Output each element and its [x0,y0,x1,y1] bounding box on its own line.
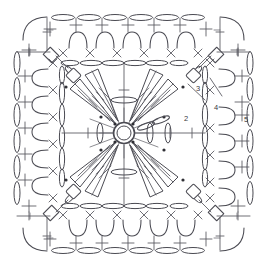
x-mark-group-bottom [59,211,202,219]
outer-right-chain-column [206,44,253,212]
row-label-2: 2 [184,114,188,123]
row-number-labels: 2 3 4 5 [184,84,248,124]
round3-chain-bar-left [59,66,64,187]
x-mark-group-top [59,49,202,57]
row-label-5: 5 [244,115,248,124]
corner-blocks [17,18,250,250]
chain-arch-group-top [69,32,195,48]
row-label-3: 3 [196,84,200,93]
crochet-chart-canvas: 2 3 4 5 [0,0,267,270]
round3-chain-bar-top [61,60,188,65]
crochet-pattern-diagram: 2 3 4 5 [0,0,267,270]
single-crochet-plus-group-right [231,44,249,212]
x-mark-group-left [49,59,57,202]
magic-ring-center [114,123,135,144]
row-label-4: 4 [214,103,218,112]
outer-left-chain-column [14,44,57,212]
chain-arch-group-bottom [69,220,195,236]
round3-chain-bar-right [202,66,207,187]
chain-oval-group-right [247,52,253,205]
outer-top-chain-row [23,15,244,58]
round3-chain-bar-bottom [61,203,188,208]
